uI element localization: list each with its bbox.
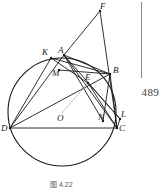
vertex-E [87, 82, 89, 84]
segments-layer [10, 11, 120, 128]
page-number: 489 [142, 86, 159, 98]
vertex-D [9, 127, 11, 129]
vertex-B [109, 73, 111, 75]
segment-AD [10, 55, 64, 128]
point-label-E: E [85, 73, 91, 82]
point-label-O: O [57, 114, 64, 123]
margin-rule-line [141, 2, 142, 78]
point-label-F: F [100, 2, 106, 11]
point-label-A: A [58, 46, 64, 55]
point-label-D: D [1, 124, 8, 133]
point-label-K: K [42, 48, 48, 57]
segment-FA [64, 11, 100, 55]
geometry-diagram-canvas [0, 0, 163, 188]
point-label-B: B [113, 66, 119, 75]
point-label-C: C [119, 124, 125, 133]
vertex-K [50, 57, 52, 59]
point-label-L: L [121, 110, 126, 119]
point-label-N: N [98, 113, 104, 122]
figure-caption: 图 4.22 [50, 179, 73, 188]
point-label-M: M [52, 69, 60, 78]
geometry-figure: FKABMEONLCD 489 图 4.22 [0, 0, 163, 188]
vertex-C [116, 127, 118, 129]
